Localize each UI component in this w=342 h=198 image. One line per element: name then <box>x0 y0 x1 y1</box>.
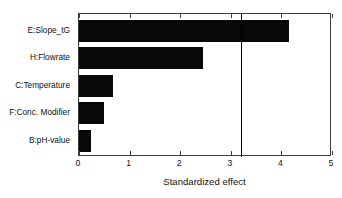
bar-slot <box>79 75 332 97</box>
bar-slot <box>79 102 332 124</box>
x-tick-top <box>180 14 181 18</box>
x-tick-label: 1 <box>117 158 141 168</box>
bar-slot <box>79 47 332 69</box>
plot-area <box>78 13 331 156</box>
x-tick-top <box>231 14 232 18</box>
bar <box>79 75 113 97</box>
x-tick-label: 3 <box>218 158 242 168</box>
x-tick-top <box>130 14 131 18</box>
bar <box>79 130 91 152</box>
bar <box>79 20 289 42</box>
category-label: B:pH-value <box>29 129 70 151</box>
x-tick-bottom <box>281 151 282 155</box>
category-label: C:Temperature <box>15 74 70 96</box>
bar-slot <box>79 20 332 42</box>
x-tick-bottom <box>79 151 80 155</box>
category-label: E:Slope_tG <box>28 19 70 41</box>
category-axis: E:Slope_tGH:FlowrateC:TemperatureF:Conc.… <box>0 14 74 156</box>
x-tick-label: 4 <box>268 158 292 168</box>
x-tick-label: 0 <box>66 158 90 168</box>
x-axis-title: Standardized effect <box>78 176 331 187</box>
significance-threshold-line <box>241 14 243 157</box>
pareto-chart: E:Slope_tGH:FlowrateC:TemperatureF:Conc.… <box>0 0 342 198</box>
x-tick-top <box>332 14 333 18</box>
x-tick-label: 2 <box>167 158 191 168</box>
bar-slot <box>79 130 332 152</box>
x-tick-label: 5 <box>319 158 342 168</box>
x-tick-bottom <box>231 151 232 155</box>
category-label: H:Flowrate <box>30 46 70 68</box>
category-label: F:Conc. Modifier <box>9 101 70 123</box>
x-tick-bottom <box>180 151 181 155</box>
x-tick-top <box>281 14 282 18</box>
x-tick-top <box>79 14 80 18</box>
bar <box>79 102 104 124</box>
x-axis-tick-labels: 012345 <box>78 158 331 172</box>
bar <box>79 47 203 69</box>
x-tick-bottom <box>332 151 333 155</box>
x-tick-bottom <box>130 151 131 155</box>
